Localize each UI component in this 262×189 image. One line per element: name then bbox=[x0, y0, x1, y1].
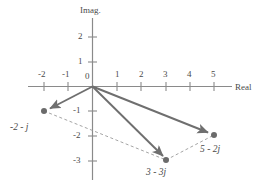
marker-5-minus-2j bbox=[211, 132, 217, 138]
axis-lines bbox=[28, 18, 232, 180]
imag-tick-label-minus1: -1 bbox=[73, 106, 81, 115]
origin-label: 0 bbox=[85, 72, 90, 81]
vector-to-5-minus-2j bbox=[93, 87, 209, 133]
real-tick-label-1: 1 bbox=[115, 70, 120, 79]
imag-tick-label-minus3: -3 bbox=[73, 156, 81, 165]
vector-to-minus2-minus-j bbox=[50, 87, 93, 109]
imag-axis-label: Imag. bbox=[80, 6, 101, 15]
real-tick-label-5: 5 bbox=[211, 70, 216, 79]
imag-tick-label-1: 1 bbox=[78, 57, 83, 66]
complex-plane-figure bbox=[0, 0, 262, 189]
real-tick-label-2: 2 bbox=[139, 70, 144, 79]
vectors bbox=[50, 87, 208, 157]
real-tick-label-3: 3 bbox=[163, 70, 168, 79]
real-axis-label: Real bbox=[235, 83, 252, 92]
real-tick-label-minus2: -2 bbox=[38, 70, 46, 79]
real-tick-label-minus1: -1 bbox=[62, 70, 70, 79]
marker-3-minus-3j bbox=[163, 157, 169, 163]
vector-to-3-minus-3j bbox=[93, 87, 164, 157]
point-markers bbox=[41, 108, 217, 163]
dashed-construction-lines bbox=[44, 111, 214, 160]
imag-tick-label-2: 2 bbox=[78, 32, 83, 41]
real-tick-label-4: 4 bbox=[187, 70, 192, 79]
marker-minus2-minus-j bbox=[41, 108, 47, 114]
imag-tick-label-minus2: -2 bbox=[73, 131, 81, 140]
point-label-5-minus-2j: 5 - 2j bbox=[200, 145, 220, 155]
point-label-minus2-minus-j: -2 - j bbox=[10, 123, 28, 133]
point-label-3-minus-3j: 3 - 3j bbox=[146, 168, 166, 178]
